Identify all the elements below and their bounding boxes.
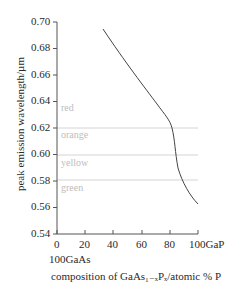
- emission-curve: [103, 29, 198, 204]
- y-tick-label: 0.62: [31, 121, 50, 133]
- band-label-orange: orange: [61, 129, 88, 140]
- y-tick-label: 0.54: [31, 227, 50, 239]
- y-tick-label: 0.66: [31, 68, 50, 80]
- y-tick-label: 0.58: [31, 174, 50, 186]
- x-tick-label: 100GaP: [189, 238, 224, 250]
- y-ticks: [53, 22, 57, 234]
- x-tick-label: 80: [164, 238, 175, 250]
- y-axis-label: peak emission wavelength/µm: [14, 44, 26, 204]
- y-tick-label: 0.60: [31, 147, 50, 159]
- x-tick-label: 60: [136, 238, 147, 250]
- x-tick-label: 40: [107, 238, 118, 250]
- x-left-end-label: 100GaAs: [49, 253, 91, 265]
- x-ticks: [57, 230, 198, 234]
- y-tick-label: 0.70: [31, 15, 50, 27]
- y-tick-label: 0.56: [31, 200, 50, 212]
- band-label-yellow: yellow: [61, 157, 88, 168]
- y-tick-label: 0.68: [31, 41, 50, 53]
- band-label-red: red: [61, 102, 74, 113]
- band-label-green: green: [61, 182, 83, 193]
- x-tick-label: 20: [79, 238, 90, 250]
- y-tick-label: 0.64: [31, 94, 50, 106]
- x-axis-label: composition of GaAs₁₋ₓPₓ/atomic % P: [51, 270, 221, 283]
- x-tick-label: 0: [54, 238, 60, 250]
